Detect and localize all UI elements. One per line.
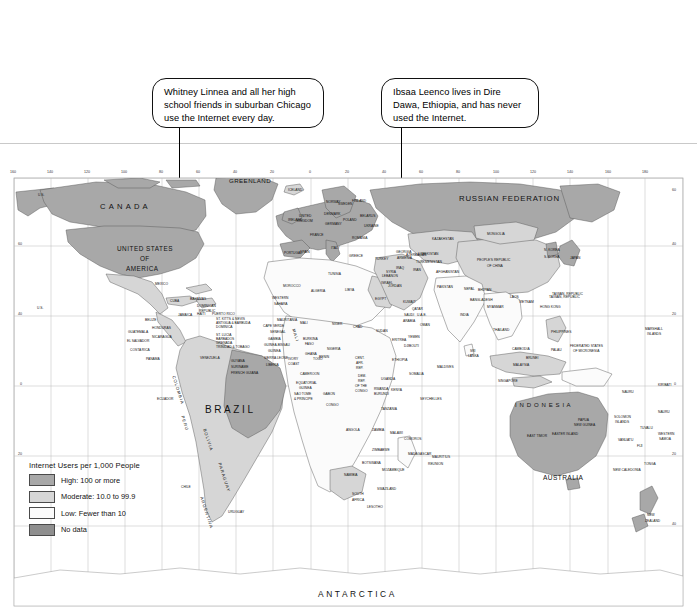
legend-item-high: High: 100 or more [29, 473, 175, 487]
lon-tick-180: 180 [642, 170, 648, 174]
lon-tick-120e: 120 [530, 170, 536, 174]
legend-swatch-high [29, 474, 55, 486]
callout-usa-text: Whitney Linnea and all her high school f… [164, 86, 313, 126]
lat-tick-right-60: 60 [672, 188, 676, 192]
legend-item-low: Low: Fewer than 10 [29, 506, 175, 520]
lat-tick-left-20: 20 [18, 452, 22, 456]
lon-tick-100w: 100 [121, 170, 127, 174]
legend-swatch-moderate [29, 491, 55, 503]
legend-label-low: Low: Fewer than 10 [61, 509, 126, 518]
world-map-svg [0, 170, 697, 614]
legend-label-moderate: Moderate: 10.0 to 99.9 [61, 492, 135, 501]
lon-tick-0: 0 [309, 170, 311, 174]
lon-tick-20w: 20 [270, 170, 274, 174]
lon-tick-80e: 80 [456, 170, 460, 174]
callout-ethiopia-text: Ibsaa Leenco lives in Dire Dawa, Ethiopi… [393, 86, 528, 126]
callout-usa-box: Whitney Linnea and all her high school f… [152, 78, 324, 128]
lon-tick-140w: 140 [47, 170, 53, 174]
world-map: 160 140 120 100 80 60 40 20 0 20 40 60 8… [0, 170, 697, 614]
legend-item-moderate: Moderate: 10.0 to 99.9 [29, 490, 175, 504]
header-divider [0, 143, 697, 144]
lat-tick-right-20s: 20 [672, 452, 676, 456]
lat-tick-left-60: 60 [18, 242, 22, 246]
lon-tick-20e: 20 [345, 170, 349, 174]
lon-tick-160w: 160 [10, 170, 16, 174]
lon-tick-40e: 40 [382, 170, 386, 174]
lon-tick-80w: 80 [159, 170, 163, 174]
lon-tick-120w: 120 [84, 170, 90, 174]
legend-swatch-low [29, 507, 55, 519]
lat-tick-left-0: 0 [20, 382, 22, 386]
lat-tick-right-40: 40 [672, 242, 676, 246]
legend-swatch-nodata [29, 524, 55, 536]
map-page: Whitney Linnea and all her high school f… [0, 0, 697, 614]
lon-tick-160e: 160 [605, 170, 611, 174]
map-legend: Internet Users per 1,000 People High: 10… [29, 461, 175, 539]
lat-tick-right-40s: 40 [672, 522, 676, 526]
lon-tick-60w: 60 [196, 170, 200, 174]
callout-ethiopia-box: Ibsaa Leenco lives in Dire Dawa, Ethiopi… [381, 78, 539, 128]
lon-tick-60e: 60 [419, 170, 423, 174]
lat-tick-left-40: 40 [18, 312, 22, 316]
lon-tick-140e: 140 [567, 170, 573, 174]
lon-tick-40w: 40 [233, 170, 237, 174]
legend-label-nodata: No data [61, 525, 87, 534]
legend-item-nodata: No data [29, 523, 175, 537]
lon-tick-100e: 100 [493, 170, 499, 174]
lat-tick-right-0: 0 [674, 382, 676, 386]
legend-label-high: High: 100 or more [61, 476, 120, 485]
lat-tick-right-20: 20 [672, 312, 676, 316]
legend-title: Internet Users per 1,000 People [29, 461, 175, 470]
